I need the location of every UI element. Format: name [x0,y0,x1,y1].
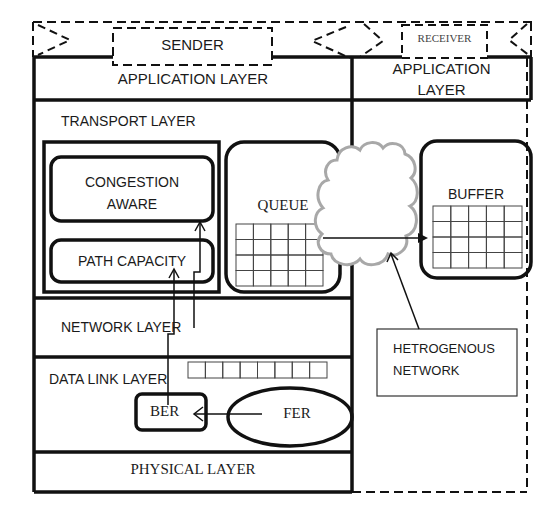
grid-cell [236,240,253,256]
grid-cell [451,222,469,238]
grid-cell [288,224,305,240]
grid-cell [253,224,270,240]
grid-cell [236,255,253,271]
grid-cell [223,362,240,378]
grid-cell [288,240,305,256]
congestion-aware-line1: CONGESTION [51,174,213,190]
grid-cell [451,253,469,269]
grid-cell [288,271,305,287]
data-link-layer-label: DATA LINK LAYER [49,371,167,387]
sender-application-layer: APPLICATION LAYER [34,70,352,87]
grid-cell [306,271,323,287]
grid-cell [469,237,487,253]
receiver-application-layer-line1: APPLICATION [352,60,531,77]
physical-layer-label: PHYSICAL LAYER [34,461,352,478]
transport-layer-label: TRANSPORT LAYER [61,113,196,129]
grid-cell [433,253,451,269]
grid-cell [504,237,522,253]
grid-cell [236,224,253,240]
grid-cell [486,253,504,269]
grid-cell [310,362,327,378]
hetero-network-line2: NETWORK [393,363,459,378]
grid-cell [486,237,504,253]
buffer-box [421,141,531,278]
grid-cell [433,222,451,238]
grid-cell [451,237,469,253]
buffer-label: BUFFER [421,186,531,202]
grid-cell [469,206,487,222]
hetero-network-line1: HETROGENOUS [393,341,495,356]
grid-cell [504,222,522,238]
network-layer-label: NETWORK LAYER [61,319,181,335]
grid-cell [469,253,487,269]
grid-cell [433,237,451,253]
queue-grid [236,224,323,286]
grid-cell [258,362,275,378]
grid-cell [451,206,469,222]
grid-cell [240,362,257,378]
buffer-grid [433,206,522,268]
congestion-aware-line2: AWARE [51,196,213,212]
data-link-frame-cells [188,362,327,378]
grid-cell [469,222,487,238]
sender-label: SENDER [113,36,272,53]
ber-label: BER [136,403,206,420]
transport-control-box [44,142,219,292]
grid-cell [275,362,292,378]
hetero-network-pointer [391,254,419,329]
grid-cell [236,271,253,287]
grid-cell [253,271,270,287]
grid-cell [306,255,323,271]
grid-cell [271,255,288,271]
grid-cell [288,255,305,271]
network-to-congestion-arrow [194,222,200,328]
path-capacity-label: PATH CAPACITY [51,253,213,269]
grid-cell [433,206,451,222]
grid-cell [292,362,309,378]
queue-label: QUEUE [226,197,340,214]
grid-cell [271,240,288,256]
grid-cell [271,271,288,287]
grid-cell [253,255,270,271]
receiver-label: RECEIVER [402,32,487,44]
fer-label: FER [262,405,332,422]
grid-cell [271,224,288,240]
grid-cell [188,362,205,378]
grid-cell [486,206,504,222]
grid-cell [486,222,504,238]
receiver-application-layer-line2: LAYER [352,81,531,98]
grid-cell [504,206,522,222]
grid-cell [504,253,522,269]
grid-cell [205,362,222,378]
arrowhead-icon [418,233,428,243]
grid-cell [253,240,270,256]
